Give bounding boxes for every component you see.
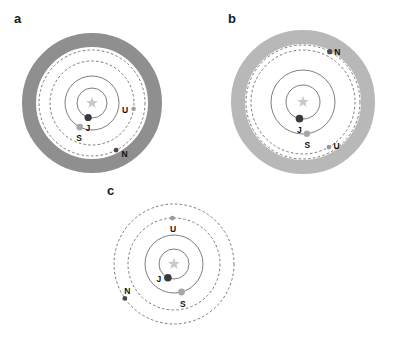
panel-a [29,40,155,166]
panel-c-label-U: U [170,225,176,234]
panel-a-label-J: J [86,124,91,133]
panel-b-planet-J [296,115,304,123]
panel-a-planet-N [114,148,119,153]
panel-a-planet-J [85,114,92,121]
panel-a-star-icon [86,97,98,108]
panel-b-label-N: N [334,48,340,57]
panel-c-planet-J [164,274,172,282]
panel-b-planet-S [304,131,310,137]
panel-a-label-N: N [122,150,128,159]
panel-a-planet-U [131,107,135,111]
panel-b-planet-N [327,49,332,54]
panel-label-b: b [228,12,236,25]
panel-b-planet-U [327,145,332,150]
orbital-diagram-figure: JSUNaJSUNbJSUNc [0,0,402,348]
panel-c [114,204,234,324]
panel-c-planet-U [170,216,175,221]
panel-label-c: c [107,184,114,197]
panel-b-label-J: J [297,126,302,135]
panel-a-label-U: U [122,106,128,115]
orbits-canvas [0,0,402,348]
panel-c-label-N: N [124,287,130,296]
panel-c-planet-N [122,296,127,301]
panel-b [238,37,368,167]
panel-a-planet-S [76,124,83,131]
panel-b-star-icon [297,96,309,107]
panel-c-planet-S [178,289,185,296]
panel-b-label-S: S [304,141,310,150]
panel-c-label-S: S [180,300,186,309]
panel-label-a: a [14,12,21,25]
panel-c-star-icon [168,258,180,269]
panel-a-label-S: S [76,134,82,143]
panel-c-label-J: J [156,275,161,284]
panel-b-label-U: U [334,142,340,151]
